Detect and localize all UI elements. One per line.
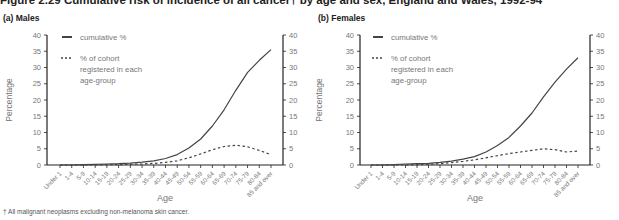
y-tick-label-left: 30 [346, 63, 354, 72]
y-tick-label-left: 40 [346, 31, 354, 40]
y-tick-label-right: 40 [596, 31, 604, 40]
y-axis-title: Percentage [314, 78, 324, 122]
x-tick-label: 1-4 [374, 169, 386, 181]
y-tick-label-right: 20 [596, 96, 604, 105]
y-tick-label-left: 35 [346, 47, 354, 56]
y-tick-label-left: 5 [350, 144, 354, 153]
y-tick-label-right: 10 [596, 128, 604, 137]
y-tick-label-right: 30 [596, 63, 604, 72]
legend-label-cohort: % of cohort [391, 54, 431, 63]
y-tick-label-right: 35 [596, 47, 604, 56]
y-tick-label-left: 0 [350, 161, 354, 170]
y-tick-label-right: 25 [596, 79, 604, 88]
legend-label-cumulative: cumulative % [391, 33, 437, 42]
legend-label-cohort: age-group [391, 76, 427, 85]
legend-label-cohort: registered in each [391, 65, 453, 74]
y-tick-label-right: 15 [596, 112, 604, 121]
y-tick-label-left: 10 [346, 128, 354, 137]
footnote: † All malignant neoplasms excluding non-… [3, 208, 189, 215]
y-tick-label-left: 25 [346, 79, 354, 88]
y-tick-label-right: 0 [596, 161, 600, 170]
females-chart: 00551010151520202525303035354040Under 11… [0, 0, 619, 220]
x-axis-title: Age [467, 193, 483, 203]
x-tick-label: Under 1 [353, 169, 374, 190]
y-tick-label-left: 15 [346, 112, 354, 121]
y-tick-label-right: 5 [596, 144, 600, 153]
y-tick-label-left: 20 [346, 96, 354, 105]
